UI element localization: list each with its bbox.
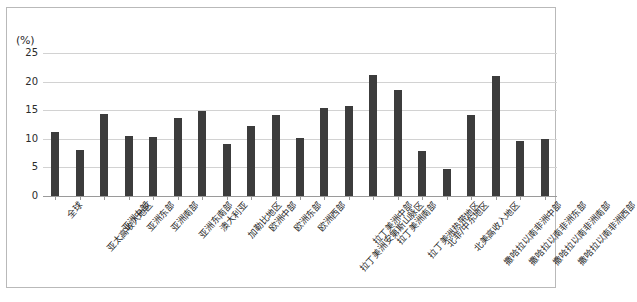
- x-axis-category-labels: 全球亚太高收入地区亚洲中部亚洲东部亚洲南部亚洲东南部澳大利亚加勒比地区欧洲中部欧…: [43, 200, 557, 296]
- bar: [198, 111, 206, 196]
- bar: [247, 126, 255, 196]
- bar: [174, 118, 182, 196]
- y-axis-tick-label: 5: [0, 161, 38, 172]
- bar: [443, 169, 451, 196]
- y-axis-tick-label: 20: [0, 76, 38, 87]
- bar: [76, 150, 84, 196]
- x-axis-category-label: 拉丁美洲安第斯山脉区: [358, 200, 426, 274]
- bar: [296, 138, 304, 196]
- bars-group: [43, 53, 557, 196]
- y-axis-tick-label: 10: [0, 133, 38, 144]
- bar: [149, 137, 157, 196]
- bar: [418, 151, 426, 196]
- bar: [223, 144, 231, 196]
- bar: [100, 114, 108, 196]
- bar: [125, 136, 133, 196]
- y-axis-tick-label: 0: [0, 190, 38, 201]
- y-axis-tick-label: 15: [0, 104, 38, 115]
- y-axis-unit-label: (%): [16, 34, 34, 47]
- bar: [541, 139, 549, 196]
- y-axis-tick-label: 25: [0, 47, 38, 58]
- bar: [394, 90, 402, 196]
- bar: [345, 106, 353, 196]
- plot-area: 0510152025: [43, 53, 557, 196]
- bar: [492, 76, 500, 196]
- bar: [516, 141, 524, 196]
- bar: [272, 115, 280, 196]
- bar: [320, 108, 328, 196]
- bar: [467, 115, 475, 196]
- chart-figure: (%) 0510152025 全球亚太高收入地区亚洲中部亚洲东部亚洲南部亚洲东南…: [6, 7, 556, 288]
- bar: [369, 75, 377, 196]
- bar: [51, 132, 59, 196]
- x-axis-category-label: 全球: [65, 200, 84, 220]
